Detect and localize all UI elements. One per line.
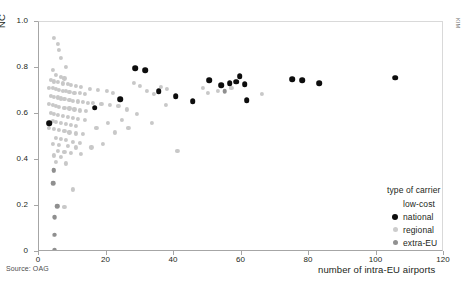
data-point-regional bbox=[61, 114, 65, 118]
data-point-regional bbox=[47, 126, 51, 130]
y-tick-label: 0.4 bbox=[2, 154, 28, 163]
data-point-national bbox=[46, 120, 52, 126]
data-point-extra-eu bbox=[52, 247, 57, 250]
data-point-regional bbox=[201, 86, 205, 90]
y-tick-label: 0.6 bbox=[2, 108, 28, 117]
data-point-regional bbox=[108, 103, 112, 107]
data-point-regional bbox=[81, 100, 85, 104]
data-point-regional bbox=[55, 149, 59, 153]
data-point-regional bbox=[77, 108, 81, 112]
data-point-regional bbox=[86, 101, 90, 105]
data-point-regional bbox=[55, 80, 59, 84]
data-point-national bbox=[132, 65, 138, 71]
legend-marker-regional-icon bbox=[387, 227, 403, 232]
data-point-regional bbox=[163, 103, 167, 107]
x-tick-mark bbox=[443, 251, 444, 255]
x-tick-mark bbox=[241, 251, 242, 255]
data-point-national bbox=[190, 99, 196, 105]
data-point-regional bbox=[62, 76, 66, 80]
x-tick-label: 80 bbox=[293, 255, 323, 264]
data-point-national bbox=[227, 80, 233, 86]
data-point-regional bbox=[76, 117, 80, 121]
data-point-regional bbox=[64, 138, 68, 142]
legend-marker-extraeu-icon bbox=[387, 240, 403, 245]
data-point-regional bbox=[64, 122, 68, 126]
data-point-extra-eu bbox=[222, 89, 227, 94]
data-point-regional bbox=[91, 100, 95, 104]
data-point-regional bbox=[89, 145, 93, 149]
y-tick-label: 1.0 bbox=[2, 16, 28, 25]
data-point-regional bbox=[111, 91, 115, 95]
legend-marker-lowcost-icon bbox=[387, 201, 403, 206]
data-point-regional bbox=[77, 140, 81, 144]
plot-area bbox=[39, 22, 442, 250]
data-point-regional bbox=[64, 161, 68, 165]
data-point-regional bbox=[99, 102, 103, 106]
legend-dot bbox=[393, 227, 398, 232]
data-point-regional bbox=[57, 128, 61, 132]
plot-frame: type of carrier low-costnationalregional… bbox=[38, 21, 443, 251]
data-point-regional bbox=[55, 113, 59, 117]
x-tick-label: 20 bbox=[91, 255, 121, 264]
data-point-extra-eu bbox=[52, 168, 57, 173]
data-point-regional bbox=[77, 91, 81, 95]
data-point-regional bbox=[104, 89, 108, 93]
data-point-regional bbox=[74, 145, 78, 149]
data-point-regional bbox=[67, 106, 71, 110]
x-tick-label: 60 bbox=[226, 255, 256, 264]
legend-item-national[interactable]: national bbox=[387, 210, 440, 223]
y-tick-label: 0 bbox=[2, 246, 28, 255]
data-point-national bbox=[143, 68, 149, 74]
data-point-national bbox=[392, 75, 398, 81]
data-point-regional bbox=[206, 91, 210, 95]
data-point-regional bbox=[55, 42, 59, 46]
data-point-regional bbox=[229, 85, 233, 89]
data-point-regional bbox=[69, 151, 73, 155]
data-point-extra-eu bbox=[55, 204, 60, 209]
data-point-regional bbox=[131, 81, 135, 85]
data-point-regional bbox=[125, 107, 129, 111]
data-point-regional bbox=[59, 121, 63, 125]
data-point-regional bbox=[54, 136, 58, 140]
legend-item-label: national bbox=[403, 212, 434, 222]
data-point-regional bbox=[64, 65, 68, 69]
data-point-regional bbox=[76, 99, 80, 103]
y-tick-label: 0.8 bbox=[2, 62, 28, 71]
data-point-regional bbox=[175, 149, 179, 153]
legend-dot bbox=[393, 201, 398, 206]
x-tick-label: 40 bbox=[158, 255, 188, 264]
data-point-national bbox=[218, 83, 224, 89]
data-point-regional bbox=[216, 89, 220, 93]
x-tick-mark bbox=[173, 251, 174, 255]
data-point-regional bbox=[260, 92, 264, 96]
data-point-regional bbox=[106, 121, 110, 125]
legend-item-extraeu[interactable]: extra-EU bbox=[387, 236, 440, 249]
data-point-regional bbox=[66, 144, 70, 148]
data-point-regional bbox=[88, 87, 92, 91]
data-point-regional bbox=[145, 89, 149, 93]
data-point-regional bbox=[101, 142, 105, 146]
data-point-regional bbox=[59, 56, 63, 60]
legend-item-lowcost[interactable]: low-cost bbox=[387, 197, 440, 210]
data-point-regional bbox=[116, 104, 120, 108]
data-point-regional bbox=[113, 130, 117, 134]
data-point-regional bbox=[54, 160, 58, 164]
data-point-regional bbox=[138, 84, 142, 88]
data-point-regional bbox=[62, 105, 66, 109]
data-point-regional bbox=[52, 36, 56, 40]
data-point-national bbox=[299, 77, 305, 83]
data-point-regional bbox=[59, 154, 63, 158]
legend-item-label: regional bbox=[403, 225, 434, 235]
data-point-regional bbox=[57, 105, 61, 109]
data-point-national bbox=[289, 76, 295, 82]
data-point-regional bbox=[94, 126, 98, 130]
data-point-regional bbox=[50, 142, 54, 146]
x-tick-label: 120 bbox=[428, 255, 458, 264]
data-point-regional bbox=[52, 127, 56, 131]
data-point-regional bbox=[71, 116, 75, 120]
legend-item-regional[interactable]: regional bbox=[387, 223, 440, 236]
y-tick-label: 0.2 bbox=[2, 200, 28, 209]
data-point-regional bbox=[81, 132, 85, 136]
data-point-regional bbox=[150, 121, 154, 125]
data-point-regional bbox=[66, 115, 70, 119]
